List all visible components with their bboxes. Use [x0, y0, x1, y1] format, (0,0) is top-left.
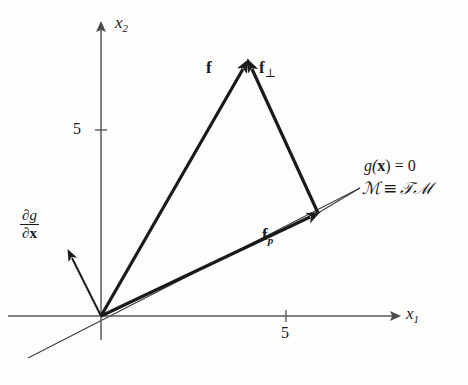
diagram-canvas: x2 x1 5 5 f f⊥ fp ∂g ∂x g(x) = 0 ℳ≡𝒯ℳ	[0, 0, 468, 385]
gradient-denominator-var: x	[29, 225, 37, 241]
gradient-fraction: ∂g ∂x	[20, 208, 39, 241]
x-axis-label-subscript: 1	[414, 313, 420, 325]
gradient-numerator: ∂g	[20, 208, 39, 224]
vector-grad-g-line	[72, 258, 101, 316]
y-axis-label-subscript: 2	[123, 22, 129, 34]
manifold-equivalence-symbol: ≡	[380, 178, 400, 198]
gradient-label: ∂g ∂x	[20, 208, 39, 241]
vector-label-f-p: fp	[262, 226, 273, 246]
y-axis-label: x2	[115, 14, 128, 34]
x-axis-label: x1	[406, 305, 419, 325]
constraint-prefix: g(	[364, 157, 377, 174]
y-axis-tick-label-5: 5	[73, 121, 81, 137]
vector-label-f: f	[206, 59, 212, 76]
x-axis-label-text: x	[406, 304, 414, 323]
vector-f-line	[101, 69, 243, 316]
vector-label-f-perp-subscript: ⊥	[265, 66, 276, 80]
y-axis-label-text: x	[115, 13, 123, 32]
constraint-equation-label: g(x) = 0	[364, 158, 416, 174]
vector-label-f-text: f	[206, 58, 212, 77]
x-axis-tick-label-5: 5	[281, 325, 289, 341]
vector-f-perp-line	[252, 69, 318, 213]
constraint-suffix: ) = 0	[385, 157, 415, 174]
gradient-numerator-var: g	[29, 207, 37, 223]
manifold-leader-line	[318, 188, 360, 213]
vector-label-f-perp: f⊥	[259, 59, 276, 79]
manifold-identity-label: ℳ≡𝒯ℳ	[362, 180, 432, 197]
vector-label-f-p-subscript: p	[268, 234, 274, 246]
manifold-symbol-left: ℳ	[362, 178, 380, 198]
manifold-symbol-right: 𝒯ℳ	[400, 178, 432, 198]
gradient-denominator: ∂x	[20, 225, 39, 241]
vector-f-p-line	[101, 217, 310, 316]
